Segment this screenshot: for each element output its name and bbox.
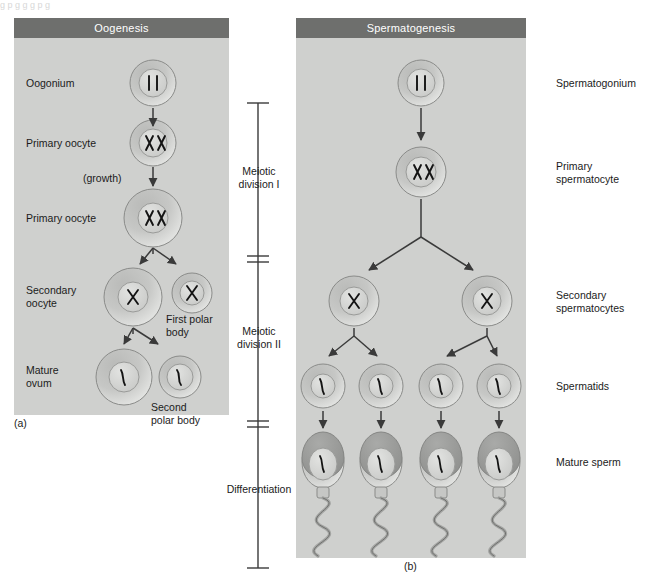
- spermatogenesis-title: Spermatogenesis: [296, 18, 526, 38]
- page-running-text: g p g g g p g: [0, 0, 657, 14]
- label-first-polar-body: First polar body: [166, 313, 228, 338]
- label-primary-spermatocyte: Primary spermatocyte: [556, 160, 651, 185]
- label-growth: (growth): [83, 172, 143, 185]
- figure-label-b: (b): [404, 560, 417, 572]
- oogenesis-title: Oogenesis: [14, 18, 229, 38]
- label-mature-sperm: Mature sperm: [556, 456, 656, 469]
- label-differentiation: Differentiation: [219, 483, 299, 496]
- label-primary-oocyte-2: Primary oocyte: [26, 212, 131, 225]
- label-meiotic-division-1: Meiotic division I: [226, 165, 292, 190]
- label-secondary-spermatocytes: Secondary spermatocytes: [556, 289, 651, 314]
- meiosis-comparison-figure: g p g g g p g Oogenesis Spermatogenesis: [0, 0, 657, 584]
- label-secondary-oocyte: Secondary oocyte: [26, 284, 98, 309]
- spermatogenesis-panel: Spermatogenesis: [296, 18, 526, 558]
- label-meiotic-division-2: Meiotic division II: [226, 325, 292, 350]
- label-spermatids: Spermatids: [556, 380, 651, 393]
- label-mature-ovum: Mature ovum: [26, 364, 86, 389]
- label-primary-oocyte-1: Primary oocyte: [26, 137, 131, 150]
- label-oogonium: Oogonium: [26, 77, 122, 90]
- figure-label-a: (a): [14, 417, 27, 429]
- label-second-polar-body: Second polar body: [151, 401, 229, 426]
- label-spermatogonium: Spermatogonium: [556, 77, 657, 90]
